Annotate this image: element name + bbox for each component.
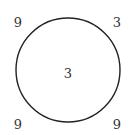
puzzle-diagram: 9 3 9 9 3 [0, 0, 129, 135]
corner-number-bottom-left: 9 [14, 118, 22, 131]
center-number: 3 [64, 67, 72, 80]
corner-number-top-left: 9 [14, 16, 22, 29]
corner-number-bottom-right: 9 [113, 118, 121, 131]
corner-number-top-right: 3 [113, 16, 121, 29]
